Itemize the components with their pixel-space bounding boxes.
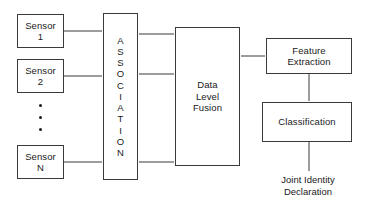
output-label-line1: Joint Identity (258, 174, 358, 186)
association-letter: I (119, 125, 122, 136)
ellipsis-dot-icon (39, 116, 42, 119)
association-letter: N (117, 147, 124, 158)
association-letter: A (117, 35, 123, 46)
fusion-label-line3: Fusion (193, 102, 222, 114)
arrow-sensorN-to-association (64, 158, 103, 166)
arrow-association-to-fusion-middle (139, 70, 175, 78)
association-letter: I (119, 91, 122, 102)
feature-extraction-label-line1: Feature (292, 45, 325, 57)
arrow-association-to-fusion-top (139, 30, 175, 38)
sensor-n-box: Sensor N (17, 145, 64, 179)
sensor-1-box: Sensor 1 (17, 14, 64, 48)
association-label-vertical: A S S O C I A T I O N (117, 35, 125, 158)
fusion-label-line2: Level (196, 91, 219, 103)
feature-extraction-label-line2: Extraction (287, 56, 330, 68)
association-letter: S (117, 57, 123, 68)
association-letter: O (117, 68, 125, 79)
arrow-sensor1-to-association (64, 27, 103, 35)
arrow-feature-extraction-to-classification (305, 74, 313, 102)
arrow-sensor2-to-association (64, 72, 103, 80)
data-fusion-diagram: Sensor 1 Sensor 2 Sensor N A S S O C I A… (0, 0, 375, 203)
classification-box: Classification (262, 102, 352, 142)
arrow-fusion-to-feature-extraction (241, 52, 266, 60)
data-level-fusion-box: Data Level Fusion (175, 27, 240, 166)
association-letter: C (117, 80, 124, 91)
output-label-line2: Declaration (258, 186, 358, 198)
ellipsis-dot-icon (39, 128, 42, 131)
sensor-1-label-line2: 1 (38, 31, 43, 43)
sensor-2-box: Sensor 2 (17, 59, 64, 93)
feature-extraction-box: Feature Extraction (266, 38, 352, 74)
association-letter: S (117, 46, 123, 57)
fusion-label-line1: Data (197, 79, 217, 91)
sensor-2-label-line1: Sensor (25, 65, 56, 77)
sensor-n-label-line1: Sensor (25, 151, 56, 163)
arrow-association-to-fusion-bottom (139, 158, 175, 166)
sensor-n-label-line2: N (37, 162, 44, 174)
association-letter: T (118, 113, 124, 124)
joint-identity-declaration-label: Joint Identity Declaration (258, 174, 358, 197)
arrow-classification-to-output (305, 142, 313, 172)
ellipsis-dot-icon (39, 104, 42, 107)
association-letter: A (117, 102, 123, 113)
association-box: A S S O C I A T I O N (103, 13, 138, 180)
classification-label-line1: Classification (278, 116, 335, 128)
sensor-2-label-line2: 2 (38, 76, 43, 88)
association-letter: O (117, 136, 125, 147)
sensor-1-label-line1: Sensor (25, 20, 56, 32)
